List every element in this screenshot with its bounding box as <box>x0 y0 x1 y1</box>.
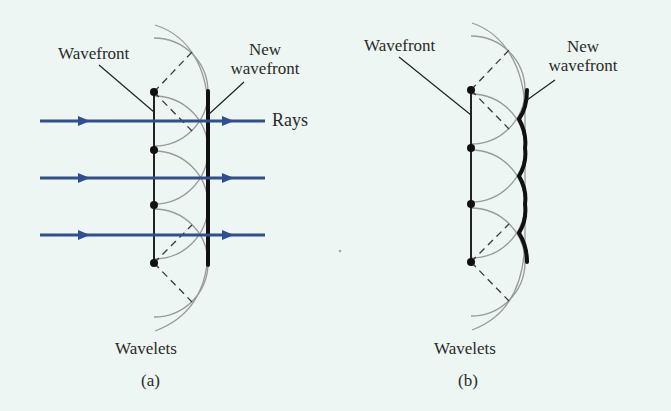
wavelet-arc <box>154 151 208 259</box>
dashed-radius <box>154 225 192 263</box>
source-point <box>150 146 158 154</box>
label-new-line2: wavefront <box>222 59 308 78</box>
source-point <box>467 200 475 208</box>
dashed-radius <box>154 52 192 92</box>
new-wavefront-leader <box>208 82 244 115</box>
new-wavefront-leader <box>527 80 555 100</box>
caption-b: (b) <box>458 371 478 390</box>
caption-a: (a) <box>141 371 160 390</box>
huygens-principle-figure: Wavefront New wavefront Rays Wavelets (a… <box>0 0 671 411</box>
label-wavefront-a: Wavefront <box>58 44 129 63</box>
wavelet-arc <box>471 208 525 316</box>
dashed-radius <box>154 92 192 131</box>
wavelet-arc <box>154 209 208 317</box>
dashed-radius <box>471 50 509 90</box>
source-point <box>150 259 158 267</box>
wavefront-leader <box>99 65 154 112</box>
label-new-wavefront-a: New wavefront <box>222 40 308 78</box>
wavelet-arc <box>471 94 525 202</box>
ray-arrow-icon <box>222 230 234 240</box>
label-new-line1: New <box>222 40 308 59</box>
wavelet-arc <box>471 150 525 258</box>
wavefront-leader <box>399 57 471 115</box>
ray-arrow-icon <box>78 116 90 126</box>
label-wavelets-a: Wavelets <box>115 339 177 358</box>
new-wavefront-scalloped <box>519 90 527 262</box>
source-point <box>467 258 475 266</box>
wavelet-arc <box>154 38 208 146</box>
source-point <box>467 144 475 152</box>
print-speck <box>339 250 342 253</box>
dashed-radius <box>154 263 192 302</box>
ray-arrow-icon <box>78 173 90 183</box>
source-point <box>467 86 475 94</box>
dashed-radius <box>471 90 509 129</box>
dashed-radius <box>471 262 509 301</box>
label-new-wavefront-b: New wavefront <box>540 37 626 75</box>
source-point <box>150 88 158 96</box>
wavelet-arc <box>154 96 208 204</box>
ray-arrow-icon <box>222 116 234 126</box>
label-rays: Rays <box>272 111 308 130</box>
ray-arrow-icon <box>78 230 90 240</box>
dashed-radius <box>471 224 509 262</box>
label-new-line1: New <box>540 37 626 56</box>
label-new-line2: wavefront <box>540 56 626 75</box>
rays <box>40 116 265 240</box>
wavelet-arc <box>471 36 525 144</box>
panel-b <box>399 23 555 330</box>
source-point <box>150 201 158 209</box>
ray-arrow-icon <box>222 173 234 183</box>
label-wavelets-b: Wavelets <box>434 339 496 358</box>
label-wavefront-b: Wavefront <box>364 36 435 55</box>
